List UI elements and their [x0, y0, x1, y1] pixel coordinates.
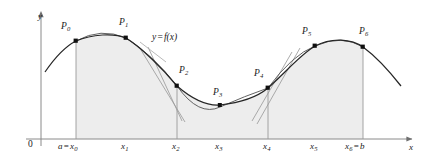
tick-label-x0: a=x0 — [58, 142, 78, 151]
tick-label-x6-equals: = — [353, 141, 360, 151]
tick-label-x4-sub: 4 — [267, 145, 271, 152]
point-label-p0-sub: 0 — [67, 25, 71, 32]
point-label-p1-base: P — [119, 17, 125, 27]
function-label-close-paren: ) — [174, 32, 177, 42]
point-marker-p4 — [266, 86, 270, 90]
point-label-p5-sub: 5 — [308, 30, 312, 37]
y-axis-label: y — [38, 12, 42, 21]
tick-label-x5-sub: 5 — [314, 145, 318, 152]
point-marker-p2 — [175, 84, 179, 88]
point-label-p4-sub: 4 — [260, 72, 264, 79]
point-label-p3: P3 — [213, 88, 222, 98]
point-label-p4: P4 — [254, 69, 263, 79]
point-marker-p1 — [124, 36, 128, 40]
x-axis-label: x — [409, 143, 413, 152]
point-label-p0-base: P — [61, 21, 67, 31]
point-marker-p0 — [74, 39, 78, 43]
function-label-equals: = — [156, 32, 164, 42]
point-label-p3-sub: 3 — [219, 91, 223, 98]
tick-label-x6-sub: 6 — [349, 145, 353, 152]
point-label-p5-base: P — [302, 26, 308, 36]
point-label-p1: P1 — [119, 18, 128, 28]
point-label-p5: P5 — [302, 27, 311, 37]
tick-label-x3-sub: 3 — [219, 145, 223, 152]
point-marker-p5 — [313, 44, 317, 48]
point-label-p2-base: P — [179, 65, 185, 75]
tick-label-x6: x6=b — [345, 142, 365, 151]
tick-label-x0-prefix: a — [58, 141, 63, 151]
tick-label-x5: x5 — [310, 142, 318, 151]
tick-label-x0-sub: 0 — [74, 145, 78, 152]
point-label-p6-sub: 6 — [365, 30, 369, 37]
tick-label-x4: x4 — [263, 142, 271, 151]
function-label: y=f(x) — [152, 33, 177, 43]
tick-label-x6-suffix: b — [360, 141, 365, 151]
point-marker-p3 — [218, 103, 222, 107]
simpsons-rule-figure: y x 0 y=f(x) P0 P1 P2 P3 P4 P5 P6 a=x0 x… — [0, 0, 426, 161]
tick-label-x1: x1 — [121, 142, 129, 151]
point-label-p6: P6 — [359, 27, 368, 37]
point-label-p2: P2 — [179, 66, 188, 76]
tick-label-x1-sub: 1 — [125, 145, 129, 152]
tick-label-x2-sub: 2 — [176, 145, 180, 152]
point-label-p4-base: P — [254, 68, 260, 78]
tick-label-x2: x2 — [172, 142, 180, 151]
point-label-p2-sub: 2 — [185, 69, 189, 76]
point-label-p1-sub: 1 — [125, 21, 129, 28]
origin-label: 0 — [28, 140, 33, 150]
tick-label-x0-equals: = — [63, 141, 70, 151]
point-label-p0: P0 — [61, 22, 70, 32]
point-label-p3-base: P — [213, 87, 219, 97]
tick-label-x3: x3 — [215, 142, 223, 151]
point-label-p6-base: P — [359, 26, 365, 36]
point-marker-p6 — [361, 45, 365, 49]
